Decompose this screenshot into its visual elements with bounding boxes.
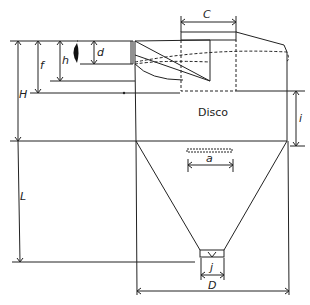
label-i: i: [299, 112, 302, 125]
cone-left: [136, 141, 200, 250]
label-h: h: [62, 54, 69, 67]
label-L: L: [20, 190, 26, 203]
label-a: a: [206, 152, 213, 165]
label-D: D: [208, 279, 216, 292]
cyclone-separator-diagram: Disco C d h f H i a L j D: [0, 0, 310, 305]
cone-right: [224, 141, 287, 250]
label-C: C: [203, 8, 211, 21]
top-cover: [236, 32, 287, 52]
outlet-pipe: [181, 32, 236, 40]
dust-outlet: [200, 250, 224, 257]
cylinder-left-wall: [135, 64, 136, 141]
inlet-flap: [74, 43, 79, 63]
label-d: d: [97, 46, 105, 59]
vortex-finder-dashed: [181, 40, 236, 91]
label-f: f: [40, 59, 46, 72]
label-j: j: [208, 261, 214, 274]
disco-label: Disco: [198, 106, 228, 119]
label-H: H: [19, 88, 27, 101]
inlet-duct: [77, 41, 133, 64]
